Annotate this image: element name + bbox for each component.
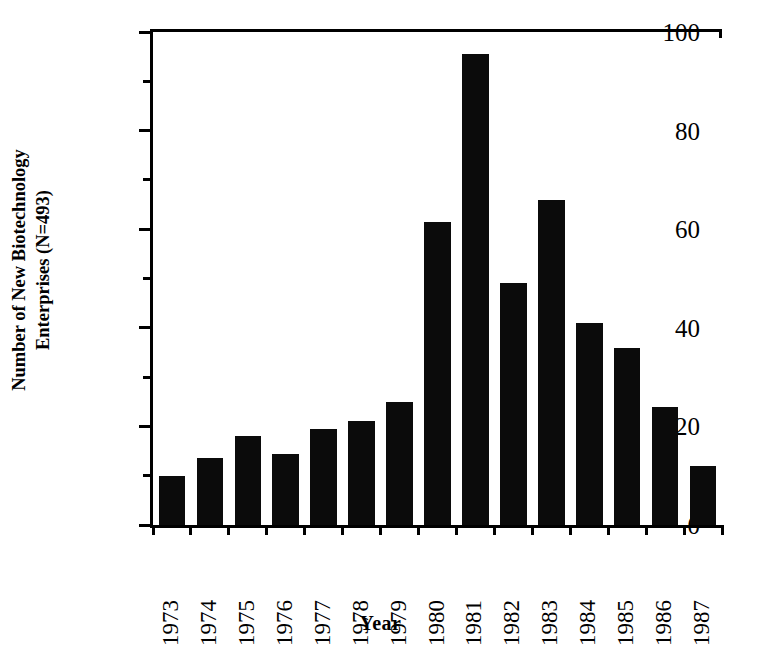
x-axis-category-label: 1973 [156,512,182,602]
top-axis-right-cap [719,29,722,38]
y-axis-tick-minor [143,474,150,477]
x-axis-category-text: 1978 [349,600,372,646]
y-axis-tick-minor [143,277,150,280]
x-axis-category-text: 1976 [273,600,296,646]
x-axis-category-text: 1973 [159,600,182,646]
x-axis-category-label: 1983 [535,512,561,602]
y-axis-title: Number of New Biotechnology Enterprises … [0,0,62,540]
x-axis-category-text: 1979 [387,600,410,646]
y-axis-tick-major [139,228,150,231]
x-axis-category-text: 1981 [462,600,485,646]
x-axis-category-label: 1977 [308,512,334,602]
x-axis-tick [645,525,648,535]
x-axis-tick [341,525,344,535]
y-axis-title-line-1: Number of New Biotechnology [7,149,31,391]
chart-figure: Number of New Biotechnology Enterprises … [0,0,761,653]
bar-1979 [386,402,413,525]
x-axis-category-label: 1985 [611,512,637,602]
y-axis-tick-major [139,31,150,34]
x-axis-tick [455,525,458,535]
bar-1978 [348,421,375,525]
y-axis-tick-minor [143,80,150,83]
bar-1983 [538,200,565,525]
x-axis-tick [721,525,724,535]
y-axis-tick-label: 40 [675,315,700,340]
x-axis-tick [493,525,496,535]
bar-1982 [500,283,527,525]
x-axis-category-text: 1974 [197,600,220,646]
x-axis-tick [531,525,534,535]
y-axis-tick-label: 20 [675,414,700,439]
x-axis-category-label: 1974 [194,512,220,602]
y-axis-tick-major [139,425,150,428]
x-axis-category-label: 1987 [687,512,713,602]
bar-1981 [462,54,489,525]
x-axis-tick [569,525,572,535]
x-axis-title: Year [0,612,761,635]
y-axis-tick-major [139,326,150,329]
x-axis-category-text: 1982 [500,600,523,646]
x-axis-tick [683,525,686,535]
bar-1984 [576,323,603,525]
x-axis-category-label: 1984 [573,512,599,602]
x-axis-category-label: 1986 [649,512,675,602]
x-axis-category-label: 1976 [270,512,296,602]
x-axis-tick [152,525,155,535]
y-axis-tick-minor [143,178,150,181]
x-axis-category-text: 1987 [690,600,713,646]
y-axis-title-line-2: Enterprises (N=493) [31,149,55,391]
y-axis-tick-major [139,524,150,527]
x-axis-category-label: 1975 [232,512,258,602]
plot-area: 020406080100 [150,29,722,528]
x-axis-category-label: 1979 [384,512,410,602]
x-axis-category-label: 1981 [459,512,485,602]
bar-1977 [310,429,337,525]
x-axis-tick [379,525,382,535]
y-axis-tick-label: 60 [675,217,700,242]
x-axis-tick [417,525,420,535]
x-axis-category-text: 1985 [614,600,637,646]
x-axis-tick [227,525,230,535]
x-axis-category-label: 1978 [346,512,372,602]
x-axis-tick [607,525,610,535]
y-axis-tick-label: 80 [675,118,700,143]
x-axis-category-text: 1986 [652,600,675,646]
y-axis-tick-minor [143,376,150,379]
x-axis-tick [303,525,306,535]
y-axis-tick-major [139,129,150,132]
bar-1980 [424,222,451,525]
bar-1986 [652,407,679,525]
x-axis-category-text: 1984 [576,600,599,646]
x-axis-category-label: 1980 [422,512,448,602]
x-axis-category-text: 1980 [425,600,448,646]
bar-1985 [614,348,641,525]
x-axis-category-text: 1975 [235,600,258,646]
x-axis-category-label: 1982 [497,512,523,602]
x-axis-category-text: 1983 [538,600,561,646]
x-axis-tick [189,525,192,535]
y-axis-tick-label: 100 [663,20,701,45]
x-axis-tick [265,525,268,535]
x-axis-category-text: 1977 [311,600,334,646]
